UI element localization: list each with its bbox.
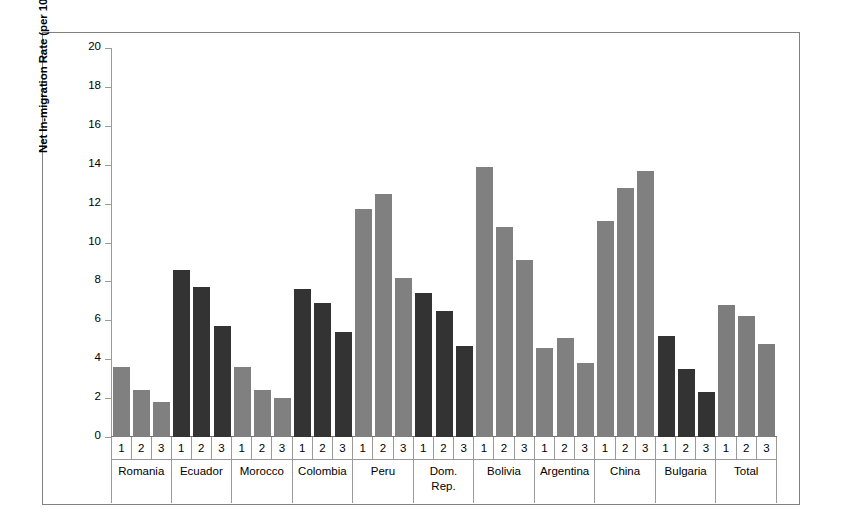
bar-peru-1 [355, 209, 372, 437]
x-period-cell: 2 [676, 437, 696, 459]
bar-romania-2 [133, 390, 150, 437]
bar-china-1 [597, 221, 614, 437]
bar-morocco-2 [254, 390, 271, 437]
x-group-label: Peru [353, 459, 413, 508]
x-period-row: 123 [656, 437, 716, 460]
bar-bolivia-1 [476, 167, 493, 437]
bar-china-2 [617, 188, 634, 437]
x-group-label: Morocco [232, 459, 292, 508]
bar-ecuador-1 [173, 270, 190, 437]
x-period-cell: 3 [394, 437, 413, 459]
x-group-label: Colombia [293, 459, 353, 508]
x-group-label-line: Rep. [430, 479, 457, 494]
bar-romania-1 [113, 367, 130, 437]
x-period-cell: 1 [172, 437, 192, 459]
x-period-row: 123 [112, 437, 171, 460]
y-tick-label: 18 [88, 79, 101, 91]
x-group-label-line: Romania [118, 464, 164, 479]
x-period-cell: 2 [434, 437, 454, 459]
y-tick-label: 14 [88, 157, 101, 169]
x-period-cell: 1 [293, 437, 313, 459]
bar-bulgaria-2 [678, 369, 695, 437]
x-group-bolivia: 123Bolivia [474, 437, 535, 503]
x-period-cell: 1 [112, 437, 132, 459]
x-group-china: 123China [595, 437, 656, 503]
bar-ecuador-2 [193, 287, 210, 437]
x-period-cell: 3 [152, 437, 171, 459]
x-group-morocco: 123Morocco [232, 437, 293, 503]
x-period-cell: 2 [252, 437, 272, 459]
x-period-cell: 1 [353, 437, 373, 459]
x-period-row: 123 [293, 437, 353, 460]
x-period-cell: 3 [575, 437, 594, 459]
bar-argentina-3 [577, 363, 594, 437]
x-period-cell: 3 [454, 437, 473, 459]
x-group-label: China [595, 459, 655, 508]
bar-colombia-2 [314, 303, 331, 437]
bar-bolivia-3 [516, 260, 533, 437]
x-period-cell: 2 [192, 437, 212, 459]
x-period-row: 123 [716, 437, 776, 460]
x-group-total: 123Total [716, 437, 777, 503]
x-period-cell: 2 [555, 437, 575, 459]
bar-peru-3 [395, 278, 412, 437]
bar-dom-rep-1 [415, 293, 432, 437]
x-period-cell: 1 [595, 437, 615, 459]
bar-china-3 [637, 171, 654, 437]
x-period-row: 123 [172, 437, 232, 460]
x-group-label: Dom.Rep. [414, 459, 474, 508]
x-period-cell: 3 [515, 437, 534, 459]
x-period-cell: 1 [414, 437, 434, 459]
bar-morocco-3 [274, 398, 291, 437]
y-tick-label: 16 [88, 118, 101, 130]
y-tick-label: 20 [88, 40, 101, 52]
x-period-cell: 1 [656, 437, 676, 459]
x-group-romania: 123Romania [111, 437, 172, 503]
y-tick-label: 10 [88, 235, 101, 247]
x-period-cell: 2 [313, 437, 333, 459]
x-group-label: Bolivia [474, 459, 534, 508]
x-period-cell: 2 [373, 437, 393, 459]
bars-layer [111, 48, 777, 437]
x-group-colombia: 123Colombia [293, 437, 354, 503]
bar-argentina-2 [557, 338, 574, 437]
bar-total-3 [758, 344, 775, 437]
x-period-cell: 1 [232, 437, 252, 459]
bar-total-2 [738, 316, 755, 437]
x-group-dom-rep: 123Dom.Rep. [414, 437, 475, 503]
x-period-cell: 1 [474, 437, 494, 459]
chart-frame: Net In-migration Rate (per 100)* 2018161… [42, 32, 800, 505]
x-group-label-line: Bolivia [487, 464, 521, 479]
bar-bolivia-2 [496, 227, 513, 437]
bar-peru-2 [375, 194, 392, 437]
x-group-label-line: China [610, 464, 640, 479]
y-tick-label: 8 [95, 273, 101, 285]
x-period-row: 123 [595, 437, 655, 460]
x-period-cell: 2 [494, 437, 514, 459]
bar-bulgaria-3 [698, 392, 715, 437]
x-period-cell: 3 [212, 437, 231, 459]
y-tick-label: 12 [88, 196, 101, 208]
bar-bulgaria-1 [658, 336, 675, 437]
x-group-label: Romania [112, 459, 171, 508]
bar-romania-3 [153, 402, 170, 437]
x-group-peru: 123Peru [353, 437, 414, 503]
x-group-label-line: Argentina [540, 464, 589, 479]
x-group-argentina: 123Argentina [535, 437, 596, 503]
y-tick-label: 0 [95, 429, 101, 441]
x-group-label: Total [716, 459, 776, 508]
x-group-label: Ecuador [172, 459, 232, 508]
y-axis-title: Net In-migration Rate (per 100)* [37, 0, 49, 153]
x-group-label-line: Peru [371, 464, 395, 479]
x-group-label-line: Morocco [240, 464, 284, 479]
x-group-label-line: Colombia [298, 464, 347, 479]
bar-dom-rep-2 [436, 311, 453, 437]
bar-dom-rep-3 [456, 346, 473, 437]
x-group-label-line: Ecuador [180, 464, 223, 479]
bar-colombia-1 [294, 289, 311, 437]
x-period-cell: 2 [616, 437, 636, 459]
x-period-cell: 1 [716, 437, 736, 459]
bar-ecuador-3 [214, 326, 231, 437]
y-tick-label: 4 [95, 351, 101, 363]
x-axis-label-table: 123Romania123Ecuador123Morocco123Colombi… [111, 437, 777, 503]
